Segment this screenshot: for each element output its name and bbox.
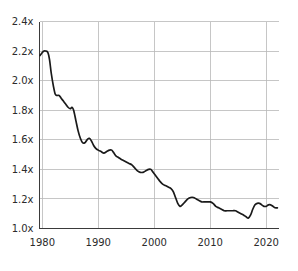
- axis-lines: [40, 22, 279, 229]
- x-tick-labels: 19801990200020102020: [30, 237, 279, 248]
- y-gridlines: [40, 22, 279, 199]
- y-tick-labels: 1.0x1.2x1.4x1.6x1.8x2.0x2.2x2.4x: [12, 16, 34, 234]
- y-tick-label: 1.4x: [12, 164, 34, 175]
- y-tick-label: 1.0x: [12, 223, 34, 234]
- x-tick-label: 2010: [197, 237, 222, 248]
- y-tick-label: 1.8x: [12, 105, 34, 116]
- y-tick-label: 1.2x: [12, 194, 34, 205]
- y-tick-label: 1.6x: [12, 134, 34, 145]
- x-gridlines: [42, 22, 266, 229]
- y-tick-label: 2.4x: [12, 16, 34, 27]
- series-group: [40, 51, 277, 218]
- chart-container: 1.0x1.2x1.4x1.6x1.8x2.0x2.2x2.4x 1980199…: [0, 0, 298, 271]
- line-chart: 1.0x1.2x1.4x1.6x1.8x2.0x2.2x2.4x 1980199…: [0, 0, 298, 271]
- y-tick-label: 2.0x: [12, 75, 34, 86]
- x-tick-label: 1980: [30, 237, 55, 248]
- x-tick-label: 1990: [86, 237, 111, 248]
- x-tick-label: 2020: [253, 237, 278, 248]
- y-tick-label: 2.2x: [12, 46, 34, 57]
- x-tick-label: 2000: [142, 237, 167, 248]
- series-line-ratio: [40, 51, 277, 218]
